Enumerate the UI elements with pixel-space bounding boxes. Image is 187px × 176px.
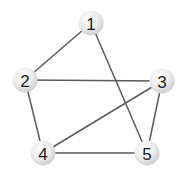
edge-2-3 — [25, 80, 162, 81]
node-3: 3 — [150, 69, 175, 94]
edge-1-5 — [91, 23, 147, 153]
graph-diagram: 12345 — [0, 0, 187, 176]
node-2: 2 — [13, 68, 38, 93]
node-label: 3 — [157, 73, 166, 92]
node-label: 2 — [20, 72, 29, 91]
node-label: 4 — [38, 145, 47, 164]
node-label: 1 — [86, 15, 95, 34]
edge-1-2 — [25, 23, 91, 80]
node-label: 5 — [142, 145, 151, 164]
edges-group — [25, 23, 162, 153]
node-1: 1 — [79, 11, 104, 36]
node-4: 4 — [31, 141, 56, 166]
node-5: 5 — [135, 141, 160, 166]
